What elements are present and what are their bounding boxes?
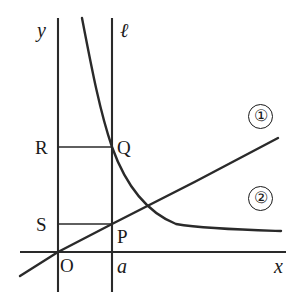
math-figure: y x O ℓ a R Q S P ① ② bbox=[0, 0, 303, 305]
y-axis-label: y bbox=[37, 20, 46, 40]
point-label-q: Q bbox=[117, 138, 131, 157]
curve-badge-2: ② bbox=[248, 186, 273, 211]
line-l-label: ℓ bbox=[120, 20, 128, 40]
x-axis-label: x bbox=[274, 256, 283, 276]
origin-label: O bbox=[60, 256, 74, 275]
point-label-r: R bbox=[35, 138, 48, 157]
x-value-a-label: a bbox=[117, 256, 127, 276]
point-label-p: P bbox=[117, 227, 128, 246]
point-label-s: S bbox=[36, 215, 47, 234]
curve-badge-1: ① bbox=[248, 104, 273, 129]
